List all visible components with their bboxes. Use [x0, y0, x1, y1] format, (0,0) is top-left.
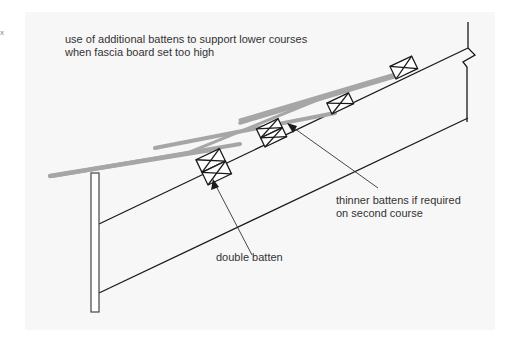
figure-caption: use of additional battens to support low…: [65, 33, 307, 59]
thinner-battens-leader: [291, 126, 378, 188]
thinner-battens-label: thinner battens if required on second co…: [336, 194, 461, 220]
thinner-battens-line-1: thinner battens if required: [336, 194, 461, 207]
double-batten: [196, 149, 232, 185]
caption-line-2: when fascia board set too high: [65, 46, 307, 59]
thinner-battens-line-2: on second course: [336, 207, 461, 220]
tile-upper: [240, 72, 402, 120]
caption-line-1: use of additional battens to support low…: [65, 33, 307, 46]
double-batten-label: double batten: [216, 251, 283, 264]
top-batten: [390, 56, 418, 79]
fascia-board: [91, 173, 99, 312]
double-batten-leader: [215, 184, 252, 255]
wall-break-line: [463, 22, 475, 122]
